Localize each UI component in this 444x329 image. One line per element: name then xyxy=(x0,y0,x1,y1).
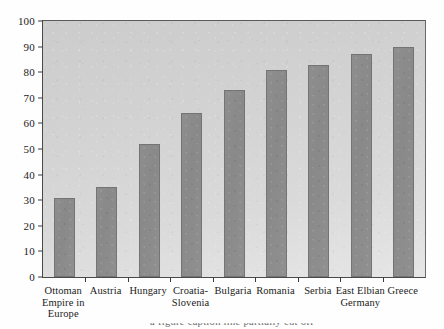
caption-text: a figure caption line partially cut off xyxy=(150,323,370,327)
plot-area: 0102030405060708090100 xyxy=(42,20,426,278)
bar xyxy=(393,47,414,277)
y-tick-mark xyxy=(38,225,43,226)
y-tick: 40 xyxy=(24,169,43,180)
y-tick-mark xyxy=(38,149,43,150)
y-tick-mark xyxy=(38,277,43,278)
bar xyxy=(181,113,202,277)
y-tick-mark xyxy=(38,21,43,22)
bar xyxy=(351,54,372,277)
y-tick-label: 30 xyxy=(24,195,38,206)
y-tick-mark xyxy=(38,72,43,73)
bar xyxy=(224,90,245,277)
y-tick-label: 70 xyxy=(24,92,38,103)
y-tick: 30 xyxy=(24,195,43,206)
x-axis-label-line: Greece xyxy=(372,285,433,297)
x-tick-mark xyxy=(255,277,256,282)
x-tick-mark xyxy=(213,277,214,282)
x-axis-label-line: Empire in xyxy=(33,297,94,309)
x-axis-label-line: Europe xyxy=(33,308,94,320)
y-tick-mark xyxy=(38,46,43,47)
bar xyxy=(54,198,75,277)
x-axis-label-line: Germany xyxy=(330,297,391,309)
bar xyxy=(308,65,329,277)
y-tick-label: 100 xyxy=(18,16,38,27)
y-tick: 20 xyxy=(24,220,43,231)
x-tick-mark xyxy=(128,277,129,282)
x-tick-mark xyxy=(383,277,384,282)
y-tick-label: 50 xyxy=(24,144,38,155)
bar xyxy=(266,70,287,277)
y-tick-mark xyxy=(38,123,43,124)
y-tick-mark xyxy=(38,200,43,201)
y-tick-label: 0 xyxy=(29,272,38,283)
y-tick-label: 60 xyxy=(24,118,38,129)
x-axis-label-line: Slovenia xyxy=(160,297,221,309)
x-tick-mark xyxy=(170,277,171,282)
y-tick-label: 90 xyxy=(24,41,38,52)
y-tick: 60 xyxy=(24,118,43,129)
y-tick-label: 10 xyxy=(24,246,38,257)
bar-chart-figure: 0102030405060708090100 OttomanEmpire inE… xyxy=(0,0,444,329)
x-tick-mark xyxy=(298,277,299,282)
y-tick: 100 xyxy=(18,16,43,27)
x-tick-mark xyxy=(85,277,86,282)
caption-clipped-line: a figure caption line partially cut off xyxy=(150,323,370,329)
y-tick-label: 80 xyxy=(24,67,38,78)
y-tick-mark xyxy=(38,174,43,175)
y-tick-label: 20 xyxy=(24,220,38,231)
y-tick: 50 xyxy=(24,144,43,155)
y-tick-label: 40 xyxy=(24,169,38,180)
y-tick: 10 xyxy=(24,246,43,257)
bar xyxy=(96,187,117,277)
y-tick: 70 xyxy=(24,92,43,103)
y-tick: 0 xyxy=(29,272,43,283)
x-axis-label: Greece xyxy=(372,285,433,297)
x-axis-labels: OttomanEmpire inEuropeAustriaHungaryCroa… xyxy=(42,285,425,325)
y-tick: 90 xyxy=(24,41,43,52)
y-tick: 80 xyxy=(24,67,43,78)
x-tick-mark xyxy=(340,277,341,282)
y-tick-mark xyxy=(38,97,43,98)
y-tick-mark xyxy=(38,251,43,252)
bar xyxy=(139,144,160,277)
